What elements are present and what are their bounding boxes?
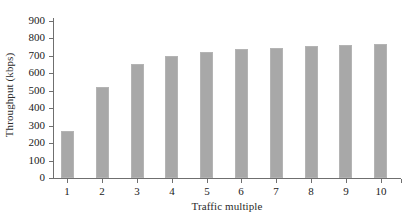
- y-axis-tick-label: 300: [0, 120, 45, 131]
- bar-chart: Throughput (kbps) 9008007006005004003002…: [0, 0, 413, 222]
- x-axis-tick-label: 10: [366, 185, 396, 197]
- x-axis-tick: [276, 179, 277, 183]
- bar: [96, 87, 109, 178]
- bar: [339, 45, 352, 178]
- bar: [200, 52, 213, 178]
- y-axis-tick-label: 0: [0, 172, 45, 183]
- y-axis-tick-label: 100: [0, 155, 45, 166]
- bar: [270, 48, 283, 178]
- y-axis-tick-label: 800: [0, 32, 45, 43]
- plot-area: [53, 21, 401, 178]
- x-axis-tick: [381, 179, 382, 183]
- bar: [374, 44, 387, 178]
- x-axis-tick: [311, 179, 312, 183]
- x-axis-tick: [346, 179, 347, 183]
- bar: [165, 56, 178, 178]
- x-axis-tick-label: 1: [52, 185, 82, 197]
- x-axis-tick-label: 7: [261, 185, 291, 197]
- x-axis-tick-label: 9: [331, 185, 361, 197]
- x-axis-tick: [172, 179, 173, 183]
- bar: [235, 49, 248, 178]
- x-axis-tick-label: 2: [87, 185, 117, 197]
- x-axis-tick: [102, 179, 103, 183]
- x-axis-tick: [67, 179, 68, 183]
- x-axis-end-tick: [401, 179, 402, 183]
- y-axis-tick-label: 600: [0, 67, 45, 78]
- x-axis-tick-label: 6: [226, 185, 256, 197]
- x-axis-title: Traffic multiple: [53, 200, 401, 212]
- x-axis-title-text: Traffic multiple: [192, 200, 263, 212]
- y-axis-tick-label: 700: [0, 50, 45, 61]
- x-axis-tick-label: 5: [192, 185, 222, 197]
- y-axis-tick-label: 900: [0, 15, 45, 26]
- x-axis-tick-label: 4: [157, 185, 187, 197]
- y-axis-tick-label: 400: [0, 102, 45, 113]
- y-axis-tick-label: 500: [0, 85, 45, 96]
- x-axis-tick: [241, 179, 242, 183]
- x-axis-tick: [207, 179, 208, 183]
- x-axis-tick-label: 3: [122, 185, 152, 197]
- bar: [131, 64, 144, 178]
- x-axis-tick-label: 8: [296, 185, 326, 197]
- bar: [305, 46, 318, 178]
- y-axis-tick-label: 200: [0, 137, 45, 148]
- bar: [61, 131, 74, 178]
- y-axis-tick: [49, 178, 53, 179]
- x-axis-tick: [137, 179, 138, 183]
